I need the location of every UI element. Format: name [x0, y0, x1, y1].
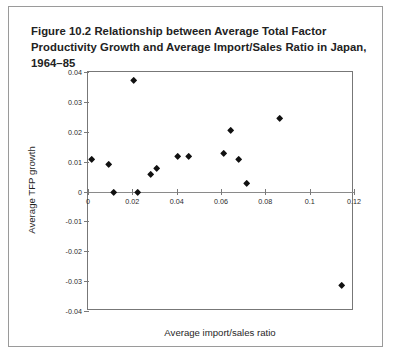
data-point	[219, 150, 227, 158]
y-tick-label: 0.01	[68, 157, 82, 166]
y-tick-mark	[84, 132, 89, 133]
x-tick-label: 0	[86, 197, 90, 206]
y-tick-label: -0.02	[66, 247, 82, 256]
data-point	[227, 126, 235, 134]
y-tick-label: -0.01	[66, 217, 82, 226]
data-point	[153, 165, 161, 173]
data-point	[105, 161, 113, 169]
y-tick-mark	[84, 281, 89, 282]
x-tick-mark	[265, 189, 266, 195]
y-tick-label: 0	[78, 187, 82, 196]
data-point	[130, 77, 138, 85]
x-tick-label: 0.04	[170, 197, 184, 206]
y-tick-mark	[84, 162, 89, 163]
data-point	[88, 156, 96, 164]
data-point	[185, 153, 193, 161]
y-axis-title: Average TFP growth	[26, 146, 37, 233]
y-tick-mark	[84, 72, 89, 73]
plot-area: 0.040.030.020.010-0.01-0.02-0.03-0.04 00…	[87, 71, 353, 310]
x-tick-label: 0.08	[258, 197, 272, 206]
x-tick-mark	[177, 189, 178, 195]
y-tick-label: -0.03	[66, 277, 82, 286]
x-axis-title: Average import/sales ratio	[87, 327, 353, 338]
x-tick-label: 0.02	[125, 197, 139, 206]
y-tick-label: 0.03	[68, 97, 82, 106]
x-tick-mark	[221, 189, 222, 195]
data-point	[235, 156, 243, 164]
x-tick-mark	[88, 189, 89, 195]
data-point	[174, 153, 182, 161]
figure-frame: Figure 10.2 Relationship between Average…	[8, 6, 383, 347]
data-point	[243, 180, 251, 188]
y-tick-mark	[84, 311, 89, 312]
figure-title: Figure 10.2 Relationship between Average…	[31, 23, 376, 71]
x-tick-mark	[354, 189, 355, 195]
data-point	[147, 171, 155, 179]
y-tick-label: 0.04	[68, 68, 82, 77]
y-tick-mark	[84, 221, 89, 222]
x-tick-mark	[310, 189, 311, 195]
y-tick-label: -0.04	[66, 307, 82, 316]
x-tick-label: 0.1	[305, 197, 315, 206]
data-point	[276, 114, 284, 122]
y-tick-mark	[84, 102, 89, 103]
data-point	[338, 282, 346, 290]
x-tick-label: 0.06	[214, 197, 228, 206]
data-point	[110, 189, 118, 197]
y-tick-mark	[84, 251, 89, 252]
y-tick-label: 0.02	[68, 127, 82, 136]
x-tick-label: 0.12	[347, 197, 361, 206]
